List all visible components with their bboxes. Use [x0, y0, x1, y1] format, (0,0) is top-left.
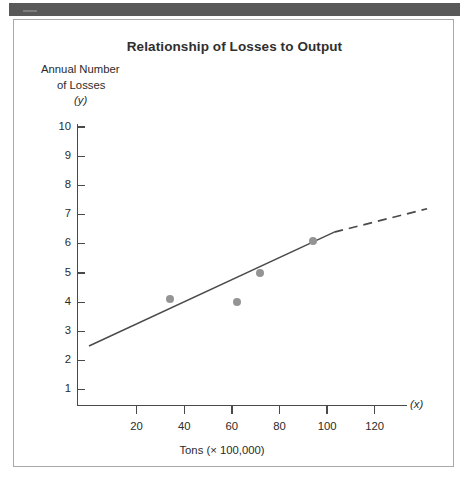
plot-lines — [14, 20, 455, 468]
data-point — [309, 237, 317, 245]
regression-line-dashed — [334, 209, 427, 232]
scanned-page: Relationship of Losses to Output Annual … — [0, 0, 469, 481]
figure-card: Relationship of Losses to Output Annual … — [13, 19, 454, 467]
regression-line-solid — [89, 232, 334, 346]
data-point — [233, 298, 241, 306]
scan-header-bar — [9, 3, 460, 16]
scan-bar-notch — [23, 10, 37, 12]
